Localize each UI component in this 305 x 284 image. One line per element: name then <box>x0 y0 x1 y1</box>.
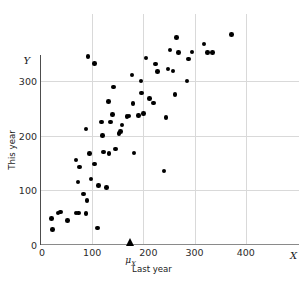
scatter-point <box>136 113 141 118</box>
scatter-point <box>111 85 116 90</box>
y-axis-symbol: Y <box>23 55 30 66</box>
scatter-point <box>168 48 173 53</box>
scatter-point <box>84 211 89 216</box>
mu-x-triangle-icon <box>126 238 134 246</box>
scatter-point <box>151 101 156 106</box>
x-tick-label: 100 <box>83 247 101 258</box>
scatter-point <box>131 101 136 106</box>
scatter-point <box>77 165 82 170</box>
gridline-horizontal <box>41 136 299 137</box>
scatter-point <box>147 96 152 101</box>
scatter-point <box>65 218 70 223</box>
scatter-point <box>176 50 181 55</box>
scatter-point <box>229 32 234 37</box>
gridline-vertical <box>92 14 93 245</box>
x-axis-title: Last year <box>132 264 172 274</box>
scatter-point <box>92 61 97 66</box>
gridline-vertical <box>143 14 144 245</box>
y-axis-title: This year <box>7 130 17 169</box>
scatter-point <box>120 123 125 128</box>
scatter-point <box>100 133 105 138</box>
scatter-point <box>113 147 118 152</box>
scatter-point <box>50 227 55 232</box>
scatter-point <box>173 92 178 97</box>
gridline-vertical <box>195 14 196 245</box>
scatter-point <box>76 180 81 185</box>
x-tick-label: 200 <box>139 247 157 258</box>
y-axis-line <box>40 55 41 245</box>
scatter-point <box>110 112 115 117</box>
mu-x-label: μX <box>125 255 136 268</box>
scatter-point <box>106 99 111 104</box>
scatter-point <box>84 127 89 132</box>
scatter-point <box>155 69 160 74</box>
scatter-point <box>185 79 190 84</box>
scatter-point <box>86 54 91 59</box>
scatter-point <box>162 169 167 174</box>
scatter-point <box>87 151 92 156</box>
scatter-plot-figure: 0100200300400 0100200300 Y X Last year T… <box>0 0 305 284</box>
gridline-horizontal <box>41 81 299 82</box>
scatter-point <box>132 151 137 156</box>
scatter-point <box>202 42 207 47</box>
scatter-point <box>104 185 109 190</box>
scatter-point <box>99 120 104 125</box>
scatter-point <box>139 91 144 96</box>
y-tick-label: 100 <box>19 185 37 196</box>
scatter-point <box>127 114 132 119</box>
scatter-point <box>174 35 179 40</box>
scatter-point <box>74 158 79 163</box>
scatter-point <box>95 226 100 231</box>
scatter-point <box>92 162 97 167</box>
scatter-point <box>76 211 81 216</box>
scatter-point <box>153 62 158 67</box>
scatter-point <box>210 50 215 55</box>
gridline-vertical <box>246 14 247 245</box>
x-tick-label: 300 <box>186 247 204 258</box>
x-axis-line <box>41 244 299 245</box>
scatter-point <box>186 57 191 62</box>
scatter-point <box>49 216 54 221</box>
scatter-point <box>107 151 112 156</box>
scatter-point <box>171 69 176 74</box>
scatter-point <box>101 150 106 155</box>
y-tick-label: 200 <box>19 130 37 141</box>
scatter-point <box>81 192 86 197</box>
y-tick-label: 300 <box>19 76 37 87</box>
x-tick-label: 0 <box>39 247 45 258</box>
scatter-point <box>164 115 169 120</box>
scatter-point <box>205 50 210 55</box>
x-tick-label: 400 <box>237 247 255 258</box>
scatter-point <box>141 111 146 116</box>
scatter-point <box>58 210 63 215</box>
y-tick-label: 0 <box>31 239 37 250</box>
x-axis-symbol: X <box>290 250 297 261</box>
scatter-point <box>166 67 171 72</box>
scatter-point <box>108 120 113 125</box>
gridline-horizontal <box>41 190 299 191</box>
scatter-point <box>118 129 123 134</box>
scatter-point <box>130 73 135 78</box>
scatter-point <box>96 183 101 188</box>
scatter-point <box>85 198 90 203</box>
scatter-point <box>144 56 149 61</box>
